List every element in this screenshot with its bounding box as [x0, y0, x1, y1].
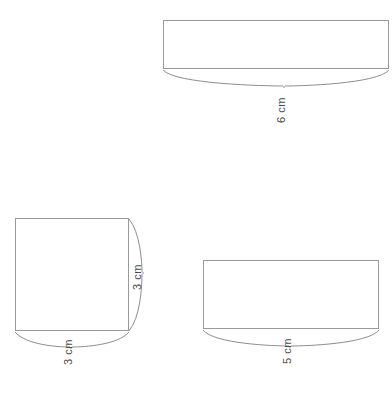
bottom-right-rectangle-outline: [204, 261, 379, 329]
diagram-canvas: 6 cm 3 cm 3 cm 5 cm: [0, 0, 392, 400]
label-top-width: 6 cm: [275, 97, 287, 123]
left-square-outline: [16, 219, 129, 331]
top-rectangle-outline: [164, 21, 389, 69]
figure-left-square: [15, 219, 144, 350]
label-bottom-right-width: 5 cm: [281, 338, 293, 364]
figure-top-rectangle: [163, 21, 389, 89]
figure-bottom-right-rectangle: [203, 261, 379, 349]
top-rectangle-dimension-brace: [163, 70, 389, 86]
diagram-svg: 6 cm 3 cm 3 cm 5 cm: [0, 0, 392, 400]
label-square-height: 3 cm: [131, 264, 143, 290]
label-square-width: 3 cm: [62, 339, 74, 365]
